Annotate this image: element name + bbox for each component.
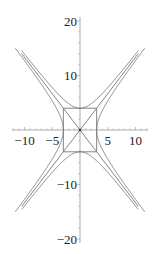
y-tick-label: −20 [57,232,77,247]
x-tick-label: 10 [129,133,142,148]
x-tick-label: 5 [105,133,112,148]
y-tick-label: 20 [64,14,77,29]
x-tick-label: −10 [14,133,34,148]
hyperbola-plot: −10−5510−20−101020 [0,0,159,254]
y-tick-label: 10 [64,68,77,83]
x-tick-label: −5 [45,133,59,148]
y-tick-label: −10 [57,177,77,192]
origin-point [79,129,82,132]
